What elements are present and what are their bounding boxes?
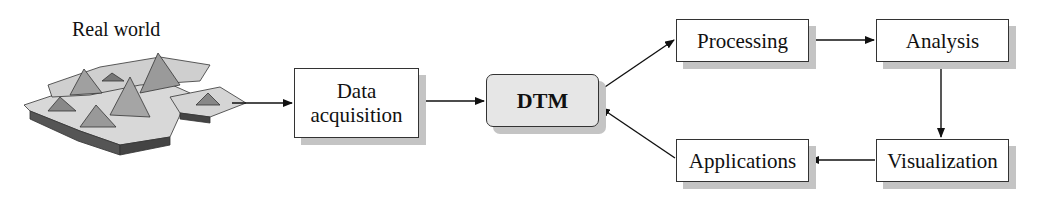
node-dtm-label: DTM	[517, 89, 568, 113]
node-analysis-label: Analysis	[906, 29, 980, 53]
node-visualization-label: Visualization	[887, 149, 998, 173]
node-applications-label: Applications	[689, 149, 796, 173]
node-applications: Applications	[676, 139, 809, 182]
node-processing: Processing	[676, 19, 809, 62]
node-data-acquisition-line2: acquisition	[310, 103, 402, 127]
node-data-acquisition-line1: Data	[337, 79, 377, 103]
node-visualization: Visualization	[876, 139, 1009, 182]
node-dtm: DTM	[486, 74, 599, 127]
node-data-acquisition: Data acquisition	[294, 68, 419, 138]
node-processing-label: Processing	[697, 29, 788, 53]
node-analysis: Analysis	[876, 19, 1009, 62]
